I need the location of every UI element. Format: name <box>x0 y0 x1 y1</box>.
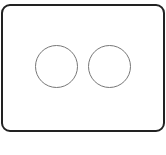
left-circle <box>35 45 78 88</box>
rounded-rectangle-frame <box>1 4 165 132</box>
right-circle <box>88 45 131 88</box>
